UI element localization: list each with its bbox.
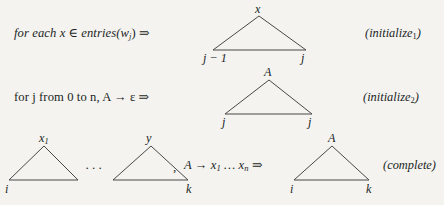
rule-tag-initialize-2-text: (initialize bbox=[363, 90, 411, 104]
triangle-initialize-2 bbox=[224, 78, 314, 116]
rule-tag-complete-tail: ) bbox=[432, 158, 436, 172]
triangle-complete-A-left-label: i bbox=[290, 183, 293, 195]
triangle-initialize-2-left-label: j bbox=[222, 116, 225, 128]
triangle-complete-y-apex-label: y bbox=[146, 132, 151, 144]
triangle-complete-y-right-label: k bbox=[186, 183, 191, 195]
premise-initialize-1-text: for each x ∈ entries(w bbox=[14, 26, 129, 40]
production-complete-head: A → x bbox=[184, 158, 216, 172]
triangle-complete-A-apex-label: A bbox=[328, 132, 335, 144]
rule-row-complete: x1 i ··· y k , A → x1 … xn ⇒ bbox=[0, 128, 444, 205]
triangle-complete-x1-apex-subscript: 1 bbox=[44, 137, 48, 146]
production-complete-mid: … x bbox=[221, 158, 245, 172]
rule-tag-complete: (complete) bbox=[383, 159, 436, 172]
rule-tag-initialize-1-tail: ) bbox=[417, 26, 421, 40]
rule-tag-complete-text: (complete bbox=[383, 158, 432, 172]
inference-rules-figure: for each x ∈ entries(wj) ⇒ x j − 1 j (in… bbox=[0, 0, 444, 205]
rule-tag-initialize-2: (initialize2) bbox=[363, 91, 419, 104]
triangle-complete-x1-left-label: i bbox=[5, 183, 8, 195]
triangle-complete-x1 bbox=[8, 144, 80, 182]
rule-row-initialize-2: for j from 0 to n, A → ε ⇒ A j j (initia… bbox=[0, 62, 444, 128]
rule-tag-initialize-2-tail: ) bbox=[415, 90, 419, 104]
premise-initialize-2: for j from 0 to n, A → ε ⇒ bbox=[14, 91, 149, 104]
triangle-initialize-2-right-label: j bbox=[308, 116, 311, 128]
triangle-complete-y bbox=[112, 144, 190, 182]
rule-row-initialize-1: for each x ∈ entries(wj) ⇒ x j − 1 j (in… bbox=[0, 0, 444, 62]
triangle-initialize-1 bbox=[212, 14, 308, 52]
triangle-complete-A-shape bbox=[293, 144, 371, 182]
rule-tag-initialize-1-text: (initialize bbox=[365, 26, 413, 40]
ellipsis-between-triangles: ··· bbox=[85, 161, 105, 174]
triangle-complete-x1-apex-label: x1 bbox=[39, 132, 49, 146]
triangle-initialize-1-apex-label: x bbox=[255, 3, 260, 15]
triangle-complete-A bbox=[293, 144, 371, 182]
triangle-initialize-1-shape bbox=[212, 14, 308, 52]
production-complete: A → x1 … xn ⇒ bbox=[184, 159, 263, 172]
premise-initialize-1: for each x ∈ entries(wj) ⇒ bbox=[14, 27, 150, 40]
triangle-initialize-2-apex-label: A bbox=[264, 66, 271, 78]
premise-initialize-2-text: for j from 0 to n, A → ε ⇒ bbox=[14, 90, 149, 104]
production-complete-arrow: ⇒ bbox=[249, 158, 263, 172]
production-comma: , bbox=[173, 160, 176, 173]
triangle-complete-y-shape bbox=[112, 144, 190, 182]
triangle-complete-A-right-label: k bbox=[366, 183, 371, 195]
triangle-initialize-2-shape bbox=[224, 78, 314, 116]
premise-initialize-1-tail: ) ⇒ bbox=[132, 26, 150, 40]
rule-tag-initialize-1: (initialize1) bbox=[365, 27, 421, 40]
triangle-complete-x1-shape bbox=[8, 144, 80, 182]
